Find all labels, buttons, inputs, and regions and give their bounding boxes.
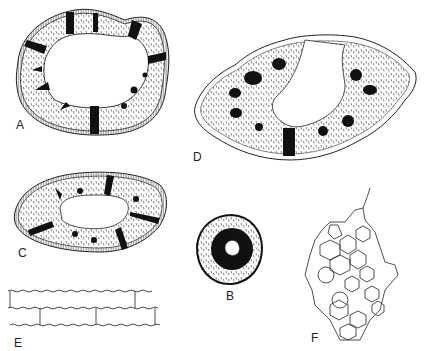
panel-f-drawing — [305, 188, 398, 340]
panel-a-drawing — [16, 9, 169, 135]
panel-label-f: F — [311, 331, 318, 345]
figure: A D — [0, 0, 424, 351]
panel-label-c: C — [18, 246, 27, 260]
panel-label-a: A — [16, 118, 24, 132]
panel-d-drawing — [195, 35, 416, 160]
panel-label-d: D — [193, 150, 202, 164]
panel-label-e: E — [14, 336, 22, 350]
panel-e-drawing — [8, 290, 160, 326]
panel-c-drawing — [14, 172, 166, 252]
panel-label-b: B — [226, 289, 234, 303]
panel-b-drawing — [197, 215, 262, 284]
